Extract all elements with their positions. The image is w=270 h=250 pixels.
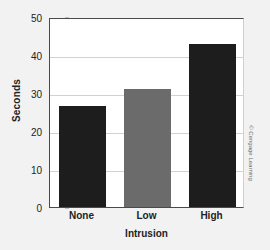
y-axis-tick-labels: 01020304050	[20, 18, 42, 208]
copyright-credit: © Cengage Learning	[248, 108, 254, 198]
y-tick-label: 0	[20, 203, 42, 214]
plot-area	[49, 18, 244, 208]
bar	[124, 89, 171, 207]
x-tick-label: None	[69, 210, 94, 221]
x-tick-label: High	[200, 210, 222, 221]
y-tick-label: 40	[20, 51, 42, 62]
x-axis-tick-labels: NoneLowHigh	[49, 210, 244, 226]
y-tick-label: 10	[20, 165, 42, 176]
y-tick-label: 20	[20, 127, 42, 138]
y-tick-label: 50	[20, 13, 42, 24]
y-tick-label: 30	[20, 89, 42, 100]
x-tick-label: Low	[137, 210, 157, 221]
bar-series	[50, 19, 243, 207]
x-axis-title: Intrusion	[49, 228, 244, 239]
bar-chart-figure: Seconds 01020304050 NoneLowHigh Intrusio…	[0, 0, 270, 250]
bar	[59, 106, 106, 207]
bar	[189, 44, 236, 207]
